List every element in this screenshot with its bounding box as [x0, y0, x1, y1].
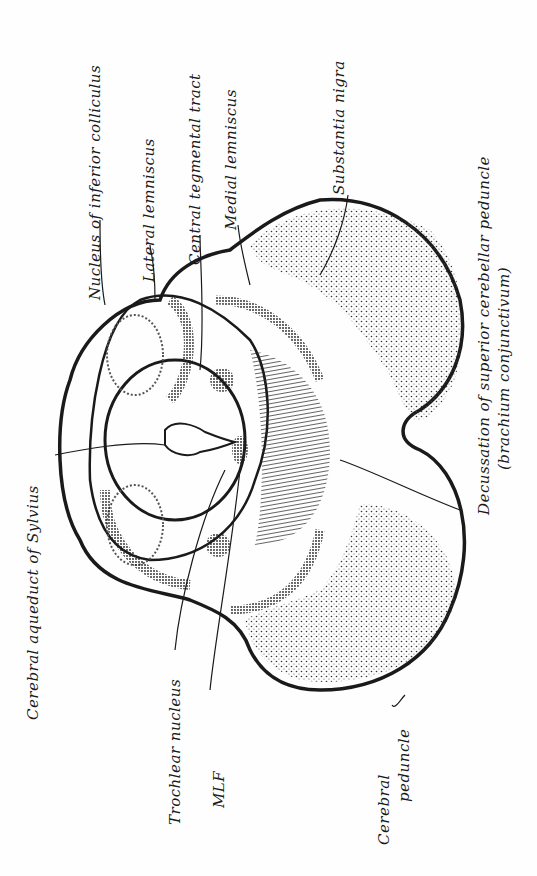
label-mlf: MLF: [210, 771, 228, 808]
label-substantia-nigra: Substantia nigra: [330, 60, 348, 195]
diagram-canvas: Nucleus of inferior colliculus Lateral l…: [0, 0, 537, 876]
label-decussation: Decussation of superior cerebellar pedun…: [475, 156, 493, 515]
central-tegmental-tract-lower: [206, 533, 230, 557]
central-tegmental-tract-upper: [210, 368, 234, 392]
cerebral-aqueduct: [165, 424, 235, 456]
label-nucleus-inferior-colliculus: Nucleus of inferior colliculus: [86, 65, 104, 300]
label-cerebral-aqueduct: Cerebral aqueduct of Sylvius: [24, 485, 42, 720]
label-cerebral-peduncle-2: peduncle: [395, 729, 413, 802]
midbrain-drawing: [0, 0, 537, 876]
label-medial-lemniscus: Medial lemniscus: [222, 89, 240, 230]
label-brachium-conjunctivum: (brachium conjunctivum): [495, 267, 513, 470]
label-cerebral-peduncle-1: Cerebral: [375, 774, 393, 845]
label-lateral-lemniscus: Lateral lemniscus: [140, 138, 158, 282]
inferior-colliculus-upper: [107, 315, 163, 395]
mlf-region: [232, 436, 248, 464]
label-trochlear-nucleus: Trochlear nucleus: [166, 679, 184, 825]
label-central-tegmental-tract: Central tegmental tract: [186, 73, 204, 265]
